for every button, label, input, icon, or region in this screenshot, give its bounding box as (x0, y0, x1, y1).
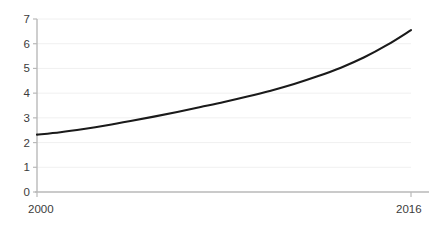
x-axis-ticks (37, 192, 411, 197)
plot-area (0, 0, 434, 227)
gridlines (37, 19, 411, 167)
line-chart: 7 6 5 4 3 2 1 0 2000 2016 (0, 0, 434, 227)
data-series-line (37, 30, 411, 135)
axes (33, 19, 429, 197)
